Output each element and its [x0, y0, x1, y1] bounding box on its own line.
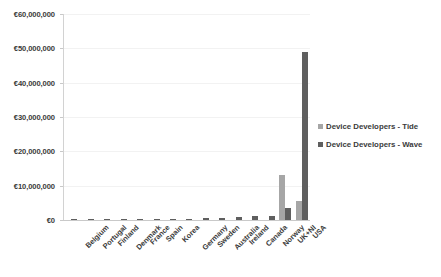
- bar-group: [162, 14, 178, 220]
- bar-group: [129, 14, 145, 220]
- legend-swatch-icon: [318, 124, 323, 129]
- bar-group: [277, 14, 293, 220]
- bar-group: [96, 14, 112, 220]
- x-axis: BelgiumPortugalFinlandDenmarkFranceSpain…: [63, 221, 310, 277]
- y-axis-line: [63, 14, 64, 221]
- legend-label: Device Developers - Wave: [326, 140, 422, 149]
- y-axis-tick-label: €50,000,000: [0, 44, 60, 53]
- bar-group: [211, 14, 227, 220]
- bar-group: [79, 14, 95, 220]
- legend-swatch-icon: [318, 142, 323, 147]
- legend-label: Device Developers - Tide: [326, 122, 418, 131]
- y-axis-tick-label: €60,000,000: [0, 10, 60, 19]
- x-axis-tick-label: Korea: [180, 223, 201, 244]
- plot-area: [63, 14, 310, 220]
- y-axis-tick-label: €0: [0, 216, 60, 225]
- bar-group: [244, 14, 260, 220]
- chart-legend: Device Developers - TideDevice Developer…: [318, 122, 441, 158]
- bar-group: [63, 14, 79, 220]
- y-axis-tick-label: €20,000,000: [0, 147, 60, 156]
- y-axis-tick-label: €40,000,000: [0, 78, 60, 87]
- y-axis-tick-label: €30,000,000: [0, 113, 60, 122]
- y-axis-tick-label: €10,000,000: [0, 181, 60, 190]
- bar-group: [178, 14, 194, 220]
- bar-group: [294, 14, 310, 220]
- bar-group: [112, 14, 128, 220]
- y-axis: €0€10,000,000€20,000,000€30,000,000€40,0…: [0, 0, 60, 277]
- bar-group: [145, 14, 161, 220]
- bar-chart: €0€10,000,000€20,000,000€30,000,000€40,0…: [0, 0, 441, 277]
- bar: [302, 52, 308, 220]
- legend-item[interactable]: Device Developers - Tide: [318, 122, 441, 131]
- legend-item[interactable]: Device Developers - Wave: [318, 140, 441, 149]
- bar: [285, 208, 291, 220]
- bar-group: [228, 14, 244, 220]
- bar-group: [261, 14, 277, 220]
- bar-group: [195, 14, 211, 220]
